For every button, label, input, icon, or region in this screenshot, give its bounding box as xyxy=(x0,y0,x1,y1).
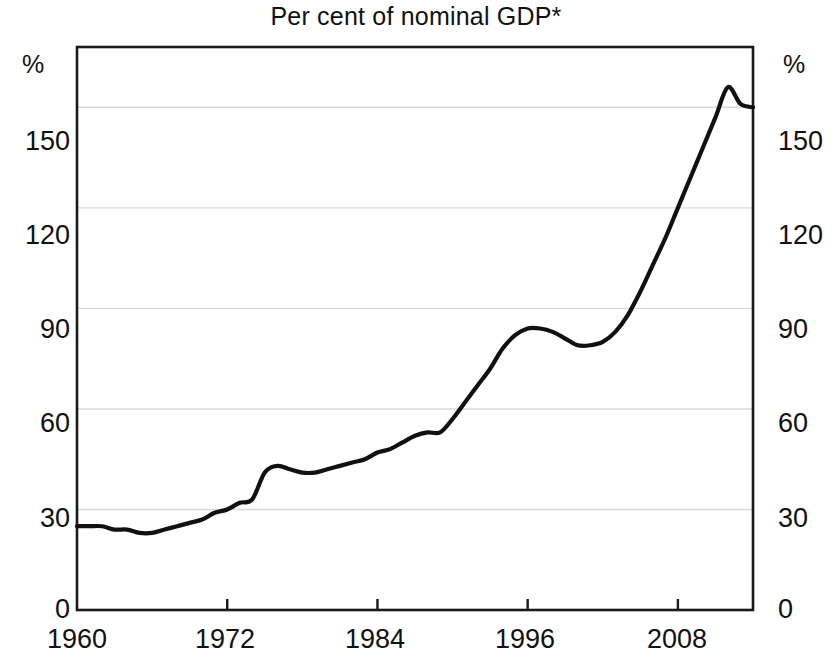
gridlines xyxy=(77,107,753,509)
plot-area xyxy=(0,0,832,666)
data-series-line xyxy=(77,87,753,533)
axis-ticks xyxy=(227,599,678,610)
chart-figure: Per cent of nominal GDP* % % 0 30 60 90 … xyxy=(0,0,832,666)
